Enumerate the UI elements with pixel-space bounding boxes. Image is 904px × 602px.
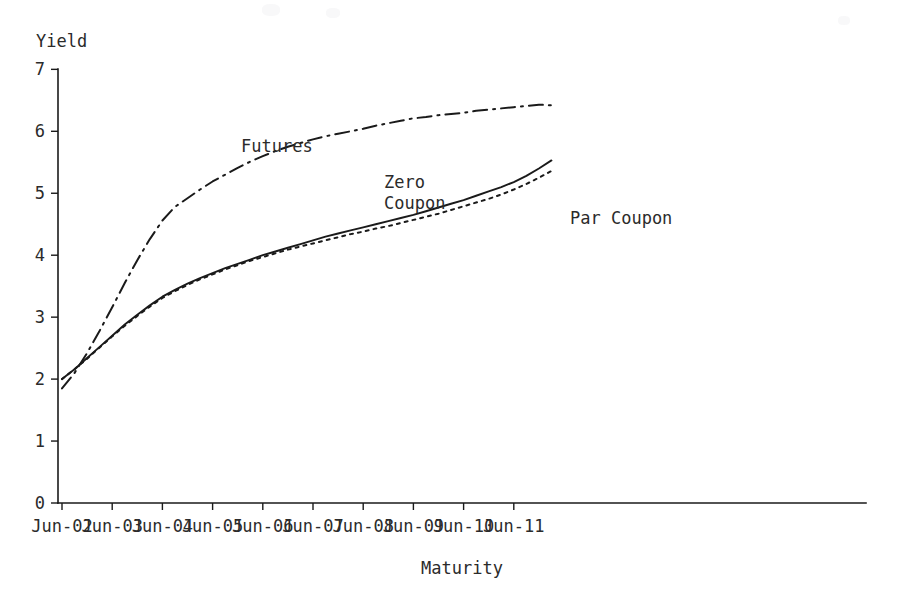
- x-tick-label-jun-11: Jun-11: [483, 516, 544, 536]
- zero-label-line2: Coupon: [384, 193, 445, 213]
- y-tick-label-6: 6: [35, 121, 45, 141]
- x-axis-ticks: Jun-02Jun-03Jun-04Jun-05Jun-06Jun-07Jun-…: [31, 503, 544, 536]
- y-tick-label-7: 7: [35, 59, 45, 79]
- x-axis-title: Maturity: [421, 558, 503, 578]
- y-axis-title: Yield: [36, 31, 87, 51]
- series-annotations: FuturesZeroCouponPar Coupon: [241, 136, 672, 228]
- y-tick-label-2: 2: [35, 369, 45, 389]
- par-label: Par Coupon: [570, 208, 672, 228]
- series-line-zero-coupon: [62, 160, 551, 379]
- y-tick-label-4: 4: [35, 245, 45, 265]
- y-tick-label-1: 1: [35, 431, 45, 451]
- series-line-par-coupon: [62, 171, 551, 379]
- y-tick-label-5: 5: [35, 183, 45, 203]
- y-tick-label-3: 3: [35, 307, 45, 327]
- yield-curve-chart: 01234567 Jun-02Jun-03Jun-04Jun-05Jun-06J…: [0, 0, 904, 602]
- futures-label: Futures: [241, 136, 313, 156]
- y-axis-ticks: 01234567: [35, 59, 58, 513]
- zero-label-line1: Zero: [384, 172, 425, 192]
- chart-svg: 01234567 Jun-02Jun-03Jun-04Jun-05Jun-06J…: [0, 0, 904, 602]
- y-tick-label-0: 0: [35, 493, 45, 513]
